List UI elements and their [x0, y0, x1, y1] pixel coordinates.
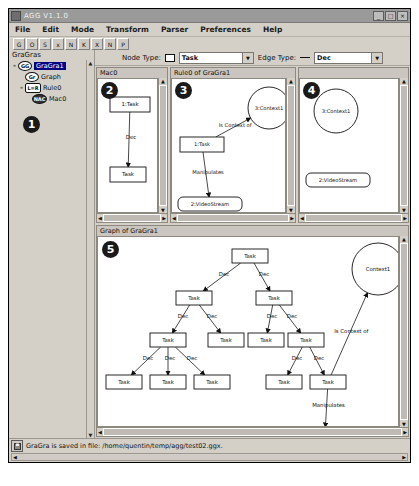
graph-edge[interactable]: Dec [126, 112, 137, 167]
graph-node[interactable]: Task [110, 167, 146, 182]
nac-scroll-left-arrow[interactable]: ◀ [98, 215, 102, 221]
graph-edge[interactable]: Dec [254, 263, 270, 291]
tree-item-rule0[interactable]: ⚬L=RRule0 [11, 82, 86, 93]
tree-vertical-scrollbar[interactable]: ▲ ▼ [86, 60, 94, 438]
menu-transform[interactable]: Transform [104, 24, 151, 35]
graph-edge[interactable]: Dec [310, 347, 325, 375]
graph-scroll-up-arrow[interactable]: ▲ [402, 236, 406, 242]
graph-edge[interactable]: Is Context of [216, 118, 252, 137]
nac-canvas[interactable]: Dec1:TaskTask 2 [97, 78, 158, 213]
node-type-combo[interactable]: Task ▼ [179, 52, 254, 64]
nac-hscroll-thumb[interactable] [103, 214, 161, 222]
rhs-hscroll-thumb[interactable] [305, 214, 402, 222]
status-scroll-right-arrow[interactable]: ▶ [402, 454, 406, 460]
graph-node[interactable]: Task [248, 333, 284, 347]
graph-node[interactable]: Task [150, 375, 186, 389]
status-scroll-left-arrow[interactable]: ◀ [13, 454, 17, 460]
menu-edit[interactable]: Edit [40, 24, 61, 35]
nac-scroll-right-arrow[interactable]: ▶ [162, 215, 166, 221]
rhs-scroll-right-arrow[interactable]: ▶ [403, 215, 407, 221]
menu-mode[interactable]: Mode [69, 24, 96, 35]
menu-parser[interactable]: Parser [159, 24, 190, 35]
graph-scroll-left-arrow[interactable]: ◀ [98, 429, 102, 435]
menu-file[interactable]: File [13, 24, 32, 35]
lhs-scroll-right-arrow[interactable]: ▶ [290, 215, 294, 221]
lhs-horizontal-scrollbar[interactable]: ◀ ▶ [171, 213, 295, 222]
rhs-vertical-scrollbar[interactable]: ▲ ▼ [399, 78, 408, 213]
rule-rhs-canvas[interactable]: 3:Context12:VideoStream 4 [299, 78, 399, 213]
graph-node[interactable]: Task [310, 375, 346, 389]
rhs-scroll-thumb[interactable] [400, 85, 408, 206]
close-button[interactable]: × [397, 11, 408, 21]
tree-expand-handle-icon[interactable]: ⚬ [18, 84, 25, 91]
graph-edge[interactable]: Dec [175, 347, 204, 375]
graph-edge[interactable]: Dec [199, 305, 220, 333]
nac-vertical-scrollbar[interactable]: ▲ ▼ [158, 78, 167, 213]
graph-node[interactable]: Task [256, 291, 292, 305]
lhs-vertical-scrollbar[interactable]: ▲ ▼ [286, 78, 295, 213]
graph-node[interactable]: 2:VideoStream [178, 197, 242, 211]
graph-node[interactable]: Task [288, 333, 324, 347]
maximize-button[interactable]: □ [385, 11, 396, 21]
rhs-horizontal-scrollbar[interactable]: ◀ ▶ [299, 213, 408, 222]
graph-node[interactable]: Task [266, 375, 302, 389]
open-icon[interactable]: O [26, 38, 38, 50]
tree-scroll-up-arrow[interactable]: ▲ [89, 60, 93, 66]
lhs-scroll-thumb[interactable] [287, 85, 295, 206]
status-scroll-thumb[interactable] [18, 455, 401, 460]
graph-hscroll-thumb[interactable] [103, 428, 402, 436]
stop-icon[interactable]: x [52, 38, 64, 50]
graph-edge[interactable]: Is Context of [331, 293, 368, 375]
host-graph-canvas[interactable]: DecDecDecDecDecDecDecDecDecDecDecManipul… [97, 236, 399, 427]
menu-preferences[interactable]: Preferences [198, 24, 253, 35]
graph-node[interactable]: 3:Context1 [248, 87, 285, 129]
print-icon[interactable]: P [117, 38, 129, 50]
graph-edge[interactable]: Manipulates [312, 389, 345, 426]
graph-node[interactable]: Task [194, 375, 230, 389]
tree-item-gragra1[interactable]: ⚬GGGraGra1 [11, 60, 86, 71]
new-gragra-icon[interactable]: G [13, 38, 25, 50]
nac-scroll-thumb[interactable] [159, 85, 167, 206]
graph-node[interactable]: Task [150, 333, 186, 347]
nac-scroll-up-arrow[interactable]: ▲ [161, 78, 165, 84]
rule-lhs-canvas[interactable]: Is Context ofManipulates1:Task3:Context1… [171, 78, 286, 213]
cut-icon[interactable]: K [78, 38, 90, 50]
minimize-button[interactable]: _ [373, 11, 384, 21]
lhs-scroll-up-arrow[interactable]: ▲ [289, 78, 293, 84]
rhs-scroll-up-arrow[interactable]: ▲ [402, 78, 406, 84]
graph-node[interactable]: 3:Context1 [314, 89, 358, 133]
graph-node[interactable]: Context1 [352, 243, 398, 295]
graph-edge[interactable]: Dec [131, 347, 160, 375]
rhs-scroll-left-arrow[interactable]: ◀ [300, 215, 304, 221]
graph-edge[interactable]: Dec [279, 305, 300, 333]
step-icon[interactable]: N [65, 38, 77, 50]
graph-node[interactable]: 1:Task [180, 137, 224, 152]
graph-edge[interactable]: Dec [267, 305, 277, 333]
graph-node[interactable]: 1:Task [110, 97, 150, 112]
nac-horizontal-scrollbar[interactable]: ◀ ▶ [97, 213, 167, 222]
graph-node[interactable]: Task [208, 333, 244, 347]
graph-horizontal-scrollbar[interactable]: ◀ ▶ [97, 427, 408, 436]
graph-node[interactable]: Task [106, 375, 142, 389]
graph-node[interactable]: Task [232, 249, 268, 263]
save-icon[interactable]: S [39, 38, 51, 50]
delete-icon[interactable]: X [91, 38, 103, 50]
tree-item-mac0[interactable]: NACMac0 [11, 93, 86, 104]
graph-edge[interactable]: Dec [165, 347, 175, 375]
graph-edge[interactable]: Manipulates [192, 152, 224, 197]
graph-scroll-right-arrow[interactable]: ▶ [403, 429, 407, 435]
lhs-scroll-left-arrow[interactable]: ◀ [172, 215, 176, 221]
graph-edge[interactable]: Dec [203, 263, 240, 291]
edge-type-combo[interactable]: Dec ▼ [314, 52, 383, 64]
tree-expand-handle-icon[interactable]: ⚬ [11, 62, 18, 69]
graph-vertical-scrollbar[interactable]: ▲ ▼ [399, 236, 408, 427]
apply-rule-icon[interactable]: N [104, 38, 116, 50]
graph-node[interactable]: Task [176, 291, 212, 305]
tree-item-graph[interactable]: GrGraph [11, 71, 86, 82]
lhs-hscroll-thumb[interactable] [177, 214, 289, 222]
graph-scroll-thumb[interactable] [400, 243, 408, 420]
menu-help[interactable]: Help [261, 24, 284, 35]
graph-node[interactable]: 2:VideoStream [306, 173, 370, 187]
edge-type-chevron-down-icon[interactable]: ▼ [371, 53, 382, 63]
node-type-chevron-down-icon[interactable]: ▼ [242, 53, 253, 63]
